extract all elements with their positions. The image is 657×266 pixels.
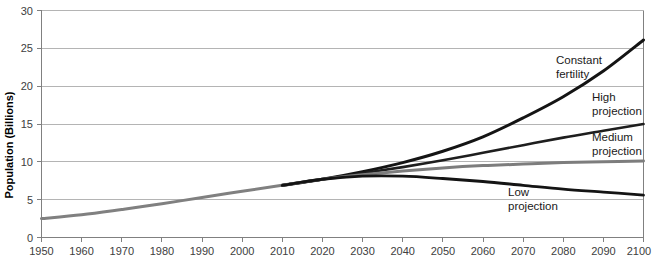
y-tick-label-0: 0 [27,232,33,244]
chart-background [0,0,657,266]
x-tick-label-2000: 2000 [230,245,254,257]
y-tick-label-20: 20 [21,80,33,92]
x-tick-label-2030: 2030 [350,245,374,257]
x-tick-label-2010: 2010 [270,245,294,257]
x-tick-label-1980: 1980 [150,245,174,257]
x-tick-label-1990: 1990 [190,245,214,257]
y-tick-label-15: 15 [21,118,33,130]
x-tick-label-2020: 2020 [310,245,334,257]
x-tick-label-2070: 2070 [511,245,535,257]
y-tick-label-5: 5 [27,194,33,206]
x-tick-label-1960: 1960 [69,245,93,257]
x-tick-label-2080: 2080 [551,245,575,257]
x-tick-label-1970: 1970 [110,245,134,257]
y-tick-label-10: 10 [21,156,33,168]
x-tick-label-2090: 2090 [591,245,615,257]
x-tick-label-2060: 2060 [471,245,495,257]
x-tick-label-2050: 2050 [431,245,455,257]
y-tick-label-30: 30 [21,5,33,17]
x-tick-label-2040: 2040 [390,245,414,257]
x-tick-label-2100: 2100 [627,245,651,257]
y-axis-title: Population (Billions) [3,91,15,198]
chart-canvas: Population (Billions) 30 25 [0,0,657,266]
y-tick-label-25: 25 [21,42,33,54]
population-projection-chart: Population (Billions) 30 25 [0,0,657,266]
x-tick-label-1950: 1950 [29,245,53,257]
